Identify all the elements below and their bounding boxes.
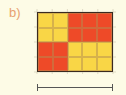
red-cell [53, 42, 68, 57]
yellow-cell [53, 13, 68, 28]
red-cell [82, 13, 97, 28]
yellow-cell [97, 42, 112, 57]
yellow-cell [38, 28, 53, 43]
yellow-cell [53, 28, 68, 43]
yellow-cell [82, 57, 97, 72]
red-cell [53, 57, 68, 72]
red-cell [38, 57, 53, 72]
red-cell [68, 13, 83, 28]
scale-bar-right-tick [112, 84, 113, 91]
red-cell [68, 28, 83, 43]
yellow-cell [82, 42, 97, 57]
red-cell [38, 42, 53, 57]
yellow-cell [68, 57, 83, 72]
red-cell [82, 28, 97, 43]
scale-bar [37, 87, 113, 88]
yellow-cell [68, 42, 83, 57]
yellow-cell [97, 57, 112, 72]
red-cell [97, 28, 112, 43]
colored-rectangle-grid [37, 12, 113, 72]
part-label: b) [9, 5, 21, 20]
red-cell [97, 13, 112, 28]
yellow-cell [38, 13, 53, 28]
